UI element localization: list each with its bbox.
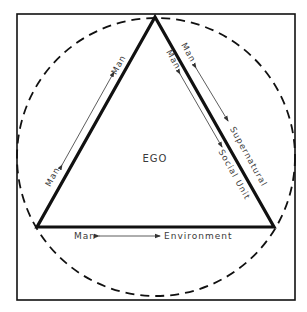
relation-right-outer: Man Supernatural: [179, 41, 269, 188]
right-inner-label-from: Man: [164, 48, 183, 71]
relation-right-inner: Man Social Unit: [164, 48, 252, 202]
relation-bottom: Man Environment: [74, 231, 232, 241]
center-label-ego: EGO: [143, 153, 168, 164]
ego-triangle: [37, 17, 274, 227]
double-arrow-icon: [180, 74, 222, 147]
relation-left: Man Man: [43, 53, 128, 188]
ego-relations-diagram: EGO Man Man Man Supernatural Man Social …: [0, 0, 307, 312]
double-arrow-icon: [62, 72, 114, 165]
right-outer-label-from: Man: [179, 41, 198, 64]
double-arrow-icon: [196, 68, 228, 121]
bottom-label-from: Man: [74, 231, 96, 241]
bottom-label-to: Environment: [164, 231, 232, 241]
